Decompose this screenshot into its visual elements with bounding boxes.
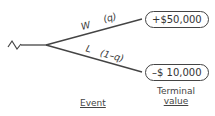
value-label: value — [154, 96, 198, 106]
branch-w-line — [46, 19, 142, 45]
event-column-header: Event — [80, 98, 106, 108]
terminal-label: Terminal — [154, 86, 198, 96]
terminal-value-w: +$50,000 — [145, 11, 209, 28]
branch-l-line — [46, 45, 142, 72]
terminal-value-l: –$ 10,000 — [145, 64, 209, 81]
terminal-value-column-header: Terminal value — [154, 86, 198, 106]
squiggle-icon — [8, 41, 21, 49]
